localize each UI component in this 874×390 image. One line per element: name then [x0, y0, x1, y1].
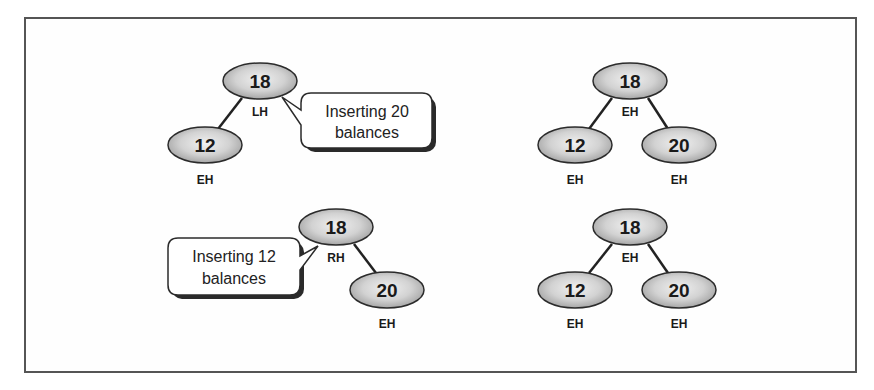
avl-balance-diagram: Inserting 20 balances 18 LH 12 EH 18 EH … — [0, 0, 874, 390]
node-key: 18 — [619, 71, 640, 92]
node-key: 20 — [376, 280, 397, 301]
callout-line-2: balances — [335, 124, 399, 141]
node-key: 20 — [668, 135, 689, 156]
callout-inserting-12: Inserting 12 balances — [168, 238, 318, 299]
callout-line-1: Inserting 20 — [325, 103, 409, 120]
balance-factor: EH — [622, 105, 639, 119]
node-key: 12 — [564, 135, 585, 156]
callout-line-1: Inserting 12 — [192, 248, 276, 265]
edge-18-12 — [589, 98, 612, 129]
balance-factor: EH — [567, 317, 584, 331]
balance-factor: EH — [379, 317, 396, 331]
edge-18-12 — [218, 98, 242, 129]
node-20: 20 EH — [642, 272, 716, 331]
node-12: 12 EH — [538, 272, 612, 331]
edge-18-12 — [589, 244, 612, 273]
panel-top-right: 18 EH 12 EH 20 EH — [538, 63, 716, 187]
node-key: 18 — [249, 71, 270, 92]
node-12: 12 EH — [538, 127, 612, 187]
callout-inserting-20: Inserting 20 balances — [282, 93, 436, 152]
node-key: 18 — [619, 217, 640, 238]
balance-factor: RH — [327, 251, 344, 265]
panel-top-left: Inserting 20 balances 18 LH 12 EH — [168, 63, 436, 187]
balance-factor: LH — [252, 105, 268, 119]
node-key: 12 — [564, 280, 585, 301]
balance-factor: EH — [671, 317, 688, 331]
edge-18-20 — [648, 98, 668, 129]
node-key: 18 — [325, 217, 346, 238]
node-key: 12 — [194, 135, 215, 156]
edge-18-20 — [648, 244, 668, 273]
node-20: 20 EH — [642, 127, 716, 187]
node-20: 20 EH — [350, 272, 424, 331]
callout-line-2: balances — [202, 270, 266, 287]
balance-factor: EH — [671, 173, 688, 187]
node-key: 20 — [668, 280, 689, 301]
edge-18-20 — [354, 244, 376, 273]
balance-factor: EH — [622, 251, 639, 265]
panel-bottom-left: Inserting 12 balances 18 RH 20 EH — [168, 209, 424, 331]
balance-factor: EH — [567, 173, 584, 187]
balance-factor: EH — [197, 173, 214, 187]
node-18: 18 LH — [223, 63, 297, 119]
panel-bottom-right: 18 EH 12 EH 20 EH — [538, 209, 716, 331]
node-12: 12 EH — [168, 127, 242, 187]
